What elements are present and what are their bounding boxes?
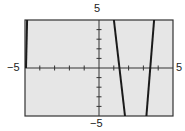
plot-area <box>0 0 185 131</box>
curve-branch-left <box>26 20 27 68</box>
